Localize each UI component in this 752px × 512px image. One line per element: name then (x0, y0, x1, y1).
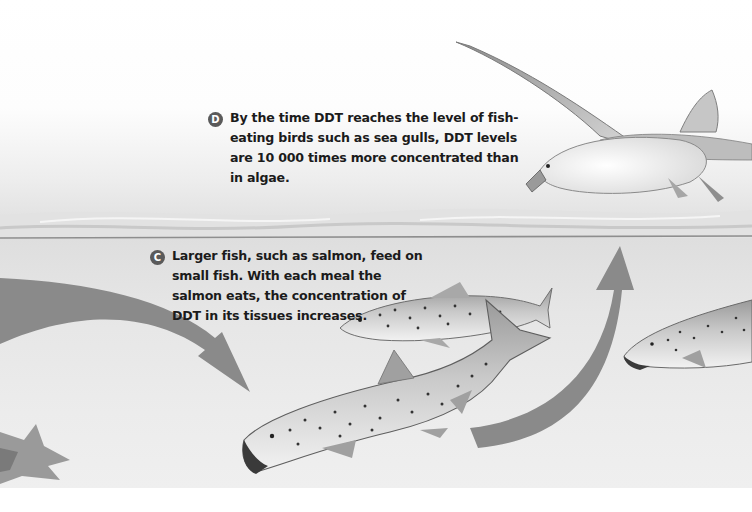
callout-badge-c: C (150, 250, 165, 265)
water-surface (0, 209, 752, 238)
page-margin-bottom (0, 488, 752, 512)
callout-c-line-2: small fish. With each meal the (172, 266, 423, 286)
callout-c-line-4: DDT in its tissues increases. (172, 306, 423, 326)
callout-d-line-4: in algae. (230, 168, 518, 188)
callout-d-line-2: eating birds such as sea gulls, DDT leve… (230, 128, 518, 148)
callout-c-text: Larger fish, such as salmon, feed on sma… (172, 246, 423, 326)
salmon-right (624, 300, 752, 370)
food-chain-illustration: D By the time DDT reaches the level of f… (0, 0, 752, 512)
callout-c-line-1: Larger fish, such as salmon, feed on (172, 246, 423, 266)
callout-d-line-3: are 10 000 times more concentrated than (230, 148, 518, 168)
callout-d-line-1: By the time DDT reaches the level of fis… (230, 108, 518, 128)
callout-d-text: By the time DDT reaches the level of fis… (230, 108, 518, 188)
callout-c-line-3: salmon eats, the concentration of (172, 286, 423, 306)
callout-badge-d: D (208, 112, 223, 127)
seaweed (0, 424, 70, 484)
